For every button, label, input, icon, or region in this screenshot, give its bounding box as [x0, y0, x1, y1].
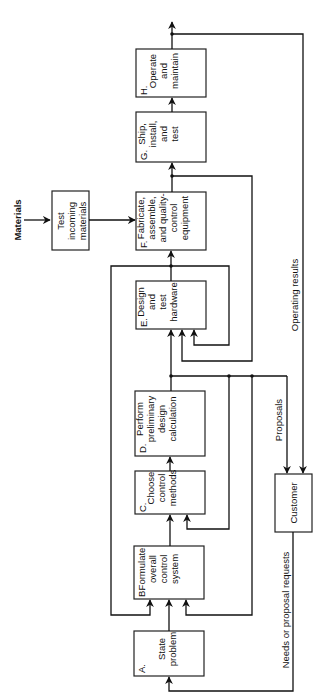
svg-text:G.: G. — [138, 150, 149, 160]
label-operating-results: Operating results — [289, 259, 300, 332]
svg-text:Operating results: Operating results — [289, 259, 300, 332]
svg-text:and: and — [158, 126, 169, 142]
label-materials: Materials — [12, 199, 23, 240]
svg-text:Proposals: Proposals — [273, 399, 284, 441]
svg-text:hardware: hardware — [168, 282, 179, 322]
svg-text:design: design — [156, 405, 167, 433]
svg-text:control: control — [156, 474, 167, 503]
svg-text:equipment: equipment — [179, 195, 190, 240]
svg-text:materials: materials — [77, 201, 88, 240]
svg-text:assemble,: assemble, — [146, 196, 157, 239]
svg-text:incoming: incoming — [66, 202, 77, 240]
svg-text:problem: problem — [167, 632, 178, 666]
svg-text:Ship,: Ship, — [136, 123, 147, 145]
svg-text:Perform: Perform — [134, 402, 145, 436]
svg-text:Needs or proposal requests: Needs or proposal requests — [280, 551, 291, 668]
svg-text:Test: Test — [55, 212, 66, 230]
label-proposals: Proposals — [273, 399, 284, 441]
svg-text:test: test — [157, 294, 168, 310]
svg-text:and: and — [146, 294, 157, 310]
svg-text:State: State — [156, 638, 167, 660]
svg-text:Fabricate,: Fabricate, — [135, 197, 146, 239]
svg-text:test: test — [169, 126, 180, 142]
svg-text:Operate: Operate — [147, 54, 158, 88]
svg-text:F.: F. — [138, 241, 149, 248]
svg-text:system: system — [169, 554, 180, 584]
svg-text:D.: D. — [137, 444, 148, 454]
svg-text:calculation: calculation — [167, 397, 178, 442]
svg-text:preliminary: preliminary — [145, 396, 156, 443]
svg-text:methods: methods — [167, 470, 178, 507]
flow-diagram: H. Operate and maintain G. Ship, install… — [0, 0, 320, 699]
svg-text:and quality-: and quality- — [157, 193, 168, 242]
svg-text:Materials: Materials — [12, 199, 23, 240]
svg-text:A.: A. — [136, 664, 147, 673]
svg-text:install,: install, — [147, 121, 158, 148]
svg-text:overall: overall — [147, 555, 158, 583]
label-needs: Needs or proposal requests — [280, 551, 291, 668]
svg-text:control: control — [158, 555, 169, 584]
svg-text:maintain: maintain — [169, 53, 180, 89]
svg-text:Choose: Choose — [145, 472, 156, 505]
svg-text:Formulate: Formulate — [136, 548, 147, 591]
svg-text:control: control — [168, 204, 179, 233]
svg-text:Design: Design — [135, 287, 146, 317]
svg-text:and: and — [158, 63, 169, 79]
svg-text:E.: E. — [138, 318, 149, 327]
svg-text:Customer: Customer — [288, 482, 299, 523]
box-f-text: F. Fabricate, assemble, and quality- con… — [135, 193, 190, 248]
box-customer-text: Customer — [288, 482, 299, 523]
